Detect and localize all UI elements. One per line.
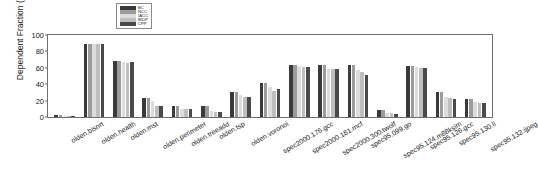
bar bbox=[247, 97, 251, 118]
bar-groups bbox=[48, 35, 492, 117]
bar-group bbox=[289, 35, 310, 117]
bar-group bbox=[142, 35, 163, 117]
y-tick-label: 20 bbox=[36, 96, 44, 105]
bar bbox=[289, 65, 293, 117]
bar bbox=[448, 98, 452, 117]
bar bbox=[423, 68, 427, 117]
bar bbox=[59, 115, 63, 117]
bar bbox=[130, 62, 134, 117]
bar bbox=[482, 103, 486, 117]
bar bbox=[335, 69, 339, 117]
bar bbox=[318, 65, 322, 117]
x-tick-label: olden.voronoi bbox=[249, 120, 289, 147]
bar bbox=[277, 89, 281, 117]
bar bbox=[205, 106, 209, 117]
bar-group bbox=[84, 35, 105, 117]
bar bbox=[54, 115, 58, 117]
bar bbox=[63, 116, 67, 117]
bar-group bbox=[201, 35, 222, 117]
bar bbox=[142, 98, 146, 117]
y-tick-label: 60 bbox=[36, 63, 44, 72]
bar bbox=[356, 70, 360, 117]
bar bbox=[260, 83, 264, 117]
y-tick-label: 40 bbox=[36, 80, 44, 89]
bar bbox=[243, 97, 247, 117]
bar bbox=[440, 92, 444, 117]
bar bbox=[147, 98, 151, 117]
bar bbox=[264, 83, 268, 117]
bar bbox=[302, 67, 306, 117]
bar bbox=[126, 63, 130, 117]
bar bbox=[214, 112, 218, 117]
bar bbox=[297, 66, 301, 117]
x-axis-tick-labels: olden.bisortolden.healtholden.mstolden.p… bbox=[47, 118, 493, 179]
y-tick-label: 100 bbox=[31, 31, 44, 40]
chart-legend: BCNCCIACCBIDPCPP bbox=[116, 3, 152, 29]
bar bbox=[122, 62, 126, 117]
bar bbox=[88, 44, 92, 117]
bar bbox=[360, 72, 364, 117]
bar bbox=[210, 111, 214, 117]
bar-group bbox=[348, 35, 369, 117]
bar bbox=[377, 110, 381, 117]
bar-group bbox=[465, 35, 486, 117]
bar bbox=[71, 116, 75, 117]
bar bbox=[444, 97, 448, 118]
bar bbox=[331, 69, 335, 117]
legend-label: CPP bbox=[138, 22, 147, 26]
bar bbox=[239, 95, 243, 117]
bar-group bbox=[318, 35, 339, 117]
bar bbox=[381, 110, 385, 117]
bar bbox=[293, 65, 297, 117]
bar bbox=[419, 68, 423, 117]
bar bbox=[96, 44, 100, 117]
bar bbox=[92, 44, 96, 117]
bar bbox=[172, 106, 176, 117]
bar-group bbox=[377, 35, 398, 117]
bar bbox=[473, 102, 477, 117]
bar bbox=[272, 91, 276, 117]
bar bbox=[151, 101, 155, 117]
bar bbox=[478, 103, 482, 117]
bar bbox=[189, 109, 193, 117]
bar bbox=[465, 99, 469, 117]
bar-group bbox=[436, 35, 457, 117]
bar bbox=[268, 87, 272, 117]
bar bbox=[201, 106, 205, 117]
bar bbox=[323, 65, 327, 117]
bar bbox=[306, 67, 310, 117]
bar bbox=[155, 106, 159, 117]
bar-group bbox=[406, 35, 427, 117]
bar bbox=[453, 99, 457, 117]
bar bbox=[415, 67, 419, 117]
bar bbox=[469, 99, 473, 117]
bar bbox=[113, 61, 117, 117]
legend-swatch bbox=[120, 22, 136, 26]
bar bbox=[67, 116, 71, 117]
bar bbox=[436, 92, 440, 117]
bar-group bbox=[113, 35, 134, 117]
bar bbox=[235, 92, 239, 117]
bar-group bbox=[230, 35, 251, 117]
bar bbox=[159, 106, 163, 117]
bar bbox=[218, 112, 222, 117]
bar bbox=[390, 113, 394, 117]
bar bbox=[348, 65, 352, 117]
bar-group bbox=[260, 35, 281, 117]
bar bbox=[180, 109, 184, 117]
bar bbox=[365, 75, 369, 117]
y-tick-label: 80 bbox=[36, 47, 44, 56]
bar bbox=[230, 92, 234, 117]
bar bbox=[117, 61, 121, 117]
bar bbox=[327, 69, 331, 117]
y-tick-label: 0 bbox=[40, 113, 44, 122]
legend-item: CPP bbox=[120, 22, 148, 26]
bar bbox=[411, 66, 415, 117]
bar bbox=[176, 106, 180, 117]
bar bbox=[352, 65, 356, 117]
bar-group bbox=[172, 35, 193, 117]
bar bbox=[101, 44, 105, 117]
bar bbox=[184, 109, 188, 117]
plot-area: 020406080100 bbox=[47, 34, 493, 118]
